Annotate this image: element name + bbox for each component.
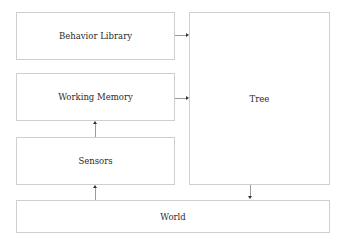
edge-working-memory-to-tree xyxy=(175,98,186,99)
arrowhead-up-icon xyxy=(93,185,97,188)
world-box: World xyxy=(16,200,330,233)
tree-label: Tree xyxy=(250,94,270,104)
behavior-library-label: Behavior Library xyxy=(59,31,132,41)
sensors-box: Sensors xyxy=(16,137,175,185)
sensors-label: Sensors xyxy=(78,156,112,166)
working-memory-box: Working Memory xyxy=(16,73,175,121)
behavior-library-box: Behavior Library xyxy=(16,12,175,60)
arrowhead-up-icon xyxy=(93,121,97,124)
edge-behavior-library-to-tree xyxy=(175,35,186,36)
edge-world-to-sensors xyxy=(95,188,96,200)
working-memory-label: Working Memory xyxy=(58,92,133,102)
arrowhead-right-icon xyxy=(186,33,189,37)
arrowhead-right-icon xyxy=(186,96,189,100)
tree-box: Tree xyxy=(189,12,330,185)
world-label: World xyxy=(160,212,186,222)
edge-sensors-to-working-memory xyxy=(95,124,96,137)
arrowhead-down-icon xyxy=(248,196,252,199)
